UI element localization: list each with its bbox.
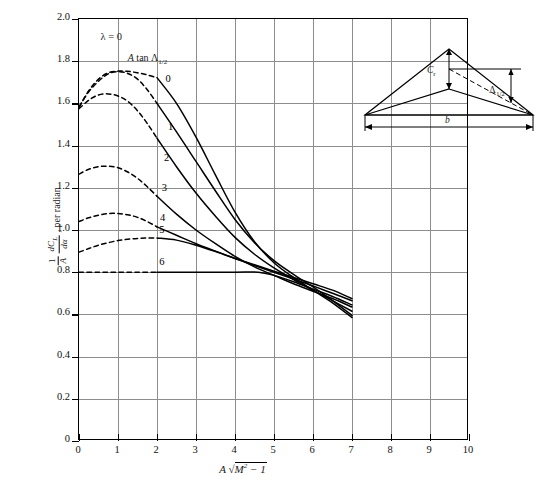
curve-solid-2 xyxy=(157,138,352,311)
x-tick xyxy=(469,434,470,441)
y-tick-label: 0.6 xyxy=(30,306,70,317)
root-chord-label: Cr xyxy=(427,65,436,78)
curve-label-1: 1 xyxy=(168,121,173,132)
curve-family-header: A tan Λ1/2 xyxy=(128,52,168,66)
planform-svg xyxy=(361,41,539,133)
curve-solid-0 xyxy=(157,78,352,318)
y-tick-label: 0 xyxy=(30,433,70,444)
curve-label-4: 4 xyxy=(160,212,165,223)
x-tick-label: 9 xyxy=(409,444,449,455)
x-tick-label: 3 xyxy=(175,444,215,455)
x-axis-radicand: M2 − 1 xyxy=(235,462,267,475)
y-axis-derivative-denominator: dα xyxy=(60,235,69,253)
y-tick-label: 0.4 xyxy=(30,349,70,360)
curve-solid-6 xyxy=(157,272,352,305)
y-tick-label: 0.8 xyxy=(30,264,70,275)
curve-dashed-1 xyxy=(79,72,157,107)
curve-label-5: 5 xyxy=(159,224,164,235)
plot-area: λ = 0 A tan Λ1/2 0123456 xyxy=(78,18,468,440)
curve-dashed-4 xyxy=(79,213,157,226)
curve-label-3: 3 xyxy=(162,182,167,193)
y-tick-label: 1.2 xyxy=(30,180,70,191)
x-tick-label: 6 xyxy=(292,444,332,455)
y-tick-label: 1.0 xyxy=(30,222,70,233)
y-tick-label: 0.2 xyxy=(30,391,70,402)
x-tick-label: 0 xyxy=(58,444,98,455)
wing-trailing-edges xyxy=(365,89,533,115)
span-arrow-right xyxy=(526,124,533,130)
curve-solid-1 xyxy=(157,103,352,315)
y-tick-label: 1.4 xyxy=(30,138,70,149)
x-tick-label: 1 xyxy=(97,444,137,455)
sweep-arrow-top xyxy=(508,69,513,75)
x-tick-label: 8 xyxy=(370,444,410,455)
x-tick-label: 10 xyxy=(448,444,488,455)
curve-dashed-2 xyxy=(79,94,157,138)
y-tick-label: 2.0 xyxy=(30,11,70,22)
x-axis-aspect-ratio: A xyxy=(219,463,226,475)
y-tick xyxy=(72,441,79,442)
curve-solid-4 xyxy=(157,227,352,299)
y-tick-label: 1.8 xyxy=(30,53,70,64)
curve-label-0: 0 xyxy=(166,73,171,84)
wing-planform-inset: Cr Λ1/2 b xyxy=(361,41,539,133)
curve-solid-5 xyxy=(157,238,352,301)
x-tick-label: 4 xyxy=(214,444,254,455)
curve-label-2: 2 xyxy=(164,152,169,163)
y-tick-label: 1.6 xyxy=(30,95,70,106)
x-axis-title: A √M2 − 1 xyxy=(0,462,486,475)
x-tick-label: 5 xyxy=(253,444,293,455)
curve-label-6: 6 xyxy=(159,256,164,267)
x-tick-label: 7 xyxy=(331,444,371,455)
sweep-angle-label: Λ1/2 xyxy=(489,85,505,98)
taper-ratio-annotation: λ = 0 xyxy=(100,31,122,42)
span-arrow-left xyxy=(365,124,372,130)
root-chord-arrow-bottom xyxy=(446,83,452,89)
curve-dashed-5 xyxy=(79,238,157,252)
span-label: b xyxy=(445,115,450,125)
y-axis-derivative: dCL dα xyxy=(47,235,70,253)
curve-dashed-3 xyxy=(79,166,157,196)
x-tick-label: 2 xyxy=(136,444,176,455)
